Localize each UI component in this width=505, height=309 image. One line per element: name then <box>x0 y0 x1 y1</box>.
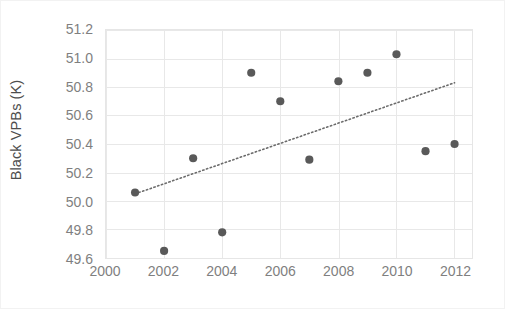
y-axis-tick-label: 50.6 <box>66 107 93 123</box>
y-axis-tick-label: 50.2 <box>66 165 93 181</box>
data-point <box>334 77 342 85</box>
x-axis-tick-label: 2000 <box>89 263 120 279</box>
x-axis-tick-label: 2012 <box>440 263 471 279</box>
x-axis-tick-label: 2002 <box>148 263 179 279</box>
y-axis-title: Black VPBs (K) <box>1 1 31 259</box>
data-point <box>160 247 168 255</box>
y-axis-title-label: Black VPBs (K) <box>8 80 24 181</box>
trendline <box>135 83 455 194</box>
y-axis-tick-labels: 49.649.850.050.250.450.650.851.051.2 <box>33 29 99 259</box>
plot-svg <box>106 30 472 258</box>
trendline-group <box>135 83 455 194</box>
data-point <box>305 156 313 164</box>
y-axis-tick-label: 51.2 <box>66 21 93 37</box>
x-axis-tick-label: 2004 <box>206 263 237 279</box>
data-point <box>421 147 429 155</box>
data-point <box>218 228 226 236</box>
x-axis-tick-label: 2010 <box>381 263 412 279</box>
horizontal-gridlines <box>106 30 472 258</box>
scatter-chart-figure: Black VPBs (K) 49.649.850.050.250.450.65… <box>0 0 505 309</box>
y-axis-tick-label: 50.4 <box>66 136 93 152</box>
x-axis-tick-labels: 2000200220042006200820102012 <box>105 263 473 289</box>
data-points-group <box>131 50 459 255</box>
data-point <box>189 154 197 162</box>
y-axis-tick-label: 51.0 <box>66 50 93 66</box>
data-point <box>247 69 255 77</box>
y-axis-tick-label: 50.8 <box>66 79 93 95</box>
y-axis-tick-label: 50.0 <box>66 194 93 210</box>
x-axis-tick-label: 2008 <box>323 263 354 279</box>
data-point <box>392 50 400 58</box>
data-point <box>363 69 371 77</box>
plot-area <box>105 29 473 259</box>
data-point <box>276 97 284 105</box>
x-axis-tick-label: 2006 <box>265 263 296 279</box>
y-axis-tick-label: 49.8 <box>66 222 93 238</box>
data-point <box>450 140 458 148</box>
data-point <box>131 188 139 196</box>
